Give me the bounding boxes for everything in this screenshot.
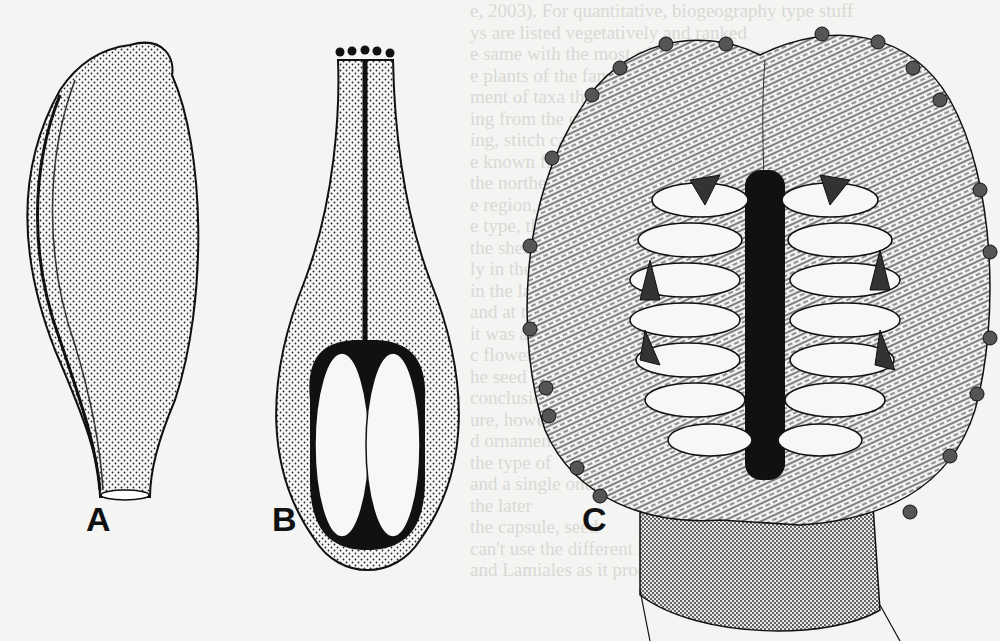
botanical-figure: e, 2003). For quantitative, biogeography… <box>0 0 1000 641</box>
panel-label-c: C <box>582 500 607 539</box>
panel-c-capsule <box>523 27 997 641</box>
panel-label-b: B <box>272 500 297 539</box>
panel-b-pistil-section <box>276 46 459 571</box>
panel-label-a: A <box>86 500 111 539</box>
illustration <box>0 0 1000 641</box>
panel-a-fruit <box>28 43 199 500</box>
